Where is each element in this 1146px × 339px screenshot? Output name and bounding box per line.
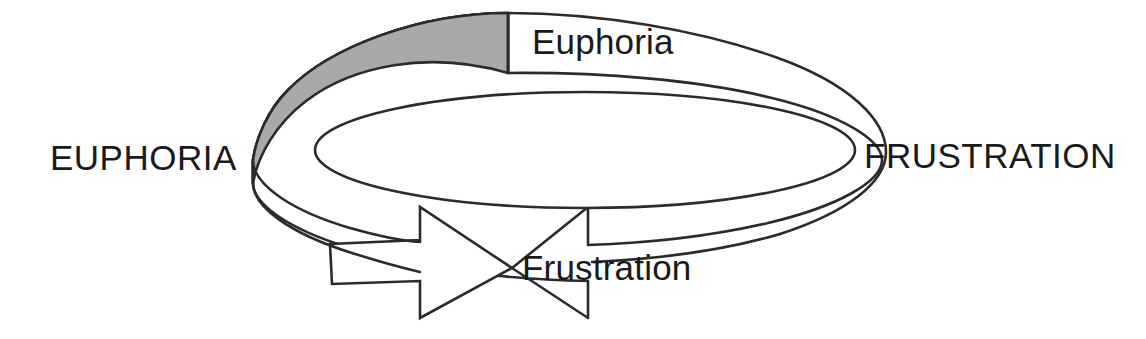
label-euphoria-uppercase: EUPHORIA xyxy=(50,140,237,175)
diagram-canvas: EUPHORIA FRUSTRATION Euphoria Frustratio… xyxy=(0,0,1146,339)
label-euphoria-mixedcase: Euphoria xyxy=(532,24,674,59)
label-frustration-mixedcase: Frustration xyxy=(522,250,691,285)
ring-inner-hole xyxy=(315,92,855,208)
label-frustration-uppercase: FRUSTRATION xyxy=(864,138,1116,173)
